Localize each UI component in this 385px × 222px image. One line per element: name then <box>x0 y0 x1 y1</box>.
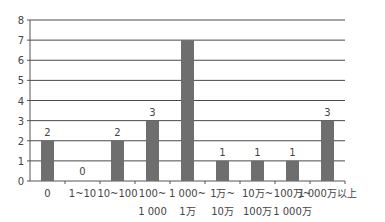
bar <box>216 161 229 181</box>
category-label-line2: 1 000 <box>138 206 167 217</box>
category-label-line2: 10万 <box>211 206 234 217</box>
category-label: 10万~ <box>242 188 273 199</box>
category-label: 100~ <box>139 188 166 199</box>
data-label: 3 <box>149 107 155 118</box>
data-label: 3 <box>324 107 330 118</box>
data-label: 2 <box>44 127 50 138</box>
category-label-line2: 100万 <box>243 206 272 217</box>
bar <box>181 40 194 181</box>
data-label: 2 <box>114 127 120 138</box>
y-tick-label: 4 <box>18 96 24 107</box>
category-label-line2: 1 000万 <box>273 206 312 217</box>
y-tick-label: 2 <box>18 136 24 147</box>
bar <box>321 121 334 181</box>
data-label: 1 <box>254 147 260 158</box>
y-tick-label: 0 <box>18 176 24 187</box>
data-label: 1 <box>219 147 225 158</box>
y-tick-label: 3 <box>18 116 24 127</box>
data-label: 0 <box>79 166 85 177</box>
y-tick-label: 5 <box>18 75 24 86</box>
bar <box>286 161 299 181</box>
bar <box>111 141 124 181</box>
category-label: 0 <box>44 188 50 199</box>
category-label: 1 000~ <box>169 188 206 199</box>
y-tick-label: 7 <box>18 35 24 46</box>
category-label: 1~10 <box>69 188 96 199</box>
category-label: 1 000万以上 <box>298 188 357 199</box>
bar <box>41 141 54 181</box>
bar-chart: 0123456782001~10210~1003100~1 0001 000~1… <box>0 0 385 222</box>
data-label: 1 <box>289 147 295 158</box>
bar <box>146 121 159 181</box>
y-tick-label: 6 <box>18 55 24 66</box>
y-tick-label: 8 <box>18 15 24 26</box>
category-label: 1万~ <box>210 188 235 199</box>
y-tick-label: 1 <box>18 156 24 167</box>
category-label-line2: 1万 <box>179 206 195 217</box>
category-label: 10~100 <box>97 188 137 199</box>
bar <box>251 161 264 181</box>
